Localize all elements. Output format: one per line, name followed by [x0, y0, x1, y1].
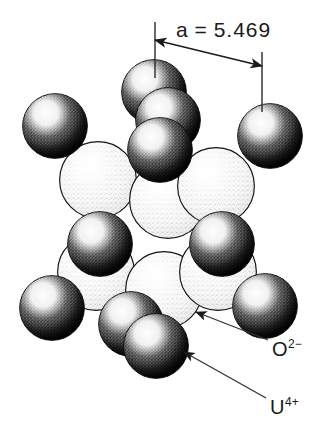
- uo2-crystal-structure-figure: [0, 0, 330, 448]
- cation-sphere-uranium: [190, 212, 255, 277]
- cation-sphere-uranium: [68, 212, 133, 277]
- cation-sphere-uranium: [124, 314, 189, 379]
- uranium-charge: 4+: [285, 395, 299, 409]
- oxygen-charge: 2−: [288, 337, 302, 351]
- cation-sphere-uranium: [238, 104, 303, 169]
- oxygen-ion-label: O2−: [272, 337, 302, 361]
- uranium-element-symbol: U: [270, 396, 285, 418]
- cation-sphere-uranium: [20, 276, 85, 341]
- cation-sphere-uranium: [233, 274, 298, 339]
- cation-sphere-uranium: [128, 118, 193, 183]
- lattice-parameter-label: a = 5.469: [176, 18, 271, 42]
- oxygen-element-symbol: O: [272, 338, 288, 360]
- equals-sign: =: [195, 18, 208, 41]
- lattice-symbol: a: [176, 18, 188, 41]
- cation-sphere-uranium: [23, 94, 88, 159]
- lattice-value: 5.469: [214, 18, 272, 41]
- uranium-ion-label: U4+: [270, 395, 299, 419]
